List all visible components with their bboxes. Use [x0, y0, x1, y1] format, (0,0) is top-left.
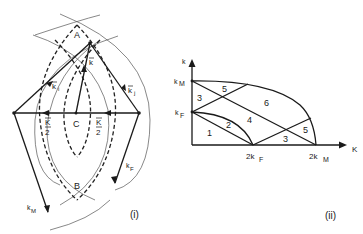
region-5-right: 5 [303, 125, 308, 135]
label-ki: k [52, 82, 57, 91]
label-k: k [89, 58, 94, 67]
svg-text:2: 2 [96, 128, 101, 137]
region-4: 4 [247, 115, 252, 125]
label-K-half-right: K 2 [96, 118, 102, 137]
region-5-top: 5 [222, 84, 227, 94]
label-kF-sub: F [130, 166, 134, 172]
y-axis-arrow-icon [189, 59, 196, 67]
caption-i: (i) [130, 209, 139, 220]
figure: A B C k k i k j K 2 K 2 k F k M (i) [0, 0, 363, 234]
x-tick-2kF: 2k [246, 152, 255, 161]
figure-ii: k K k M k F 2k F 2k M 1 2 3 4 5 6 3 5 (i… [174, 58, 358, 221]
svg-text:K: K [96, 118, 102, 127]
label-B: B [74, 181, 80, 191]
label-ki-sub: i [58, 86, 59, 92]
svg-text:K: K [45, 118, 51, 127]
region-3-right: 3 [283, 134, 288, 144]
arrow-kM-icon [44, 205, 50, 213]
caption-ii: (ii) [325, 210, 336, 221]
label-kj-sub: j [133, 90, 135, 96]
y-tick-kF: k [175, 109, 179, 116]
label-A: A [74, 30, 80, 40]
arrow-K-left-icon [42, 110, 49, 116]
y-tick-kM: k [174, 78, 178, 85]
arrow-k-icon [81, 65, 87, 72]
y-tick-kM-sub: M [179, 80, 185, 87]
y-axis-label: k [182, 58, 186, 65]
arrow-K-right-icon [104, 110, 111, 116]
label-K-half-left: K 2 [45, 118, 51, 137]
x-tick-2kM: 2k [309, 152, 318, 161]
region-6: 6 [264, 98, 269, 108]
x-tick-2kF-sub: F [259, 156, 263, 163]
thin-circle-arcs [33, 14, 150, 230]
svg-text:2: 2 [45, 128, 50, 137]
region-1: 1 [207, 128, 212, 138]
figure-i: A B C k k i k j K 2 K 2 k F k M (i) [12, 14, 150, 230]
label-kj: k [128, 86, 133, 95]
x-tick-2kM-sub: M [323, 156, 329, 163]
y-tick-kF-sub: F [180, 112, 184, 119]
region-3-left: 3 [197, 93, 202, 103]
x-axis-label: K [352, 145, 358, 154]
label-C: C [73, 119, 80, 129]
label-kM-sub: M [31, 208, 36, 214]
x-axis-arrow-icon [339, 142, 347, 149]
region-2: 2 [226, 120, 231, 130]
